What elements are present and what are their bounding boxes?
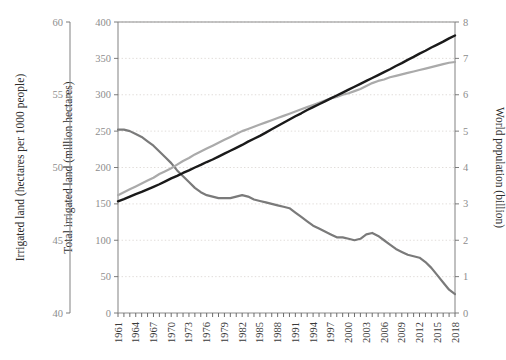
x-tick-label: 1970 [166, 322, 177, 343]
y-tick-label-outer: 60 [53, 17, 64, 28]
y-tick-label-inner: 400 [95, 17, 111, 28]
chart-svg: 1961196419671970197319761979198219851988… [0, 0, 506, 360]
y-tick-label-right: 6 [463, 89, 468, 100]
y-tick-label-inner: 250 [95, 126, 111, 137]
series-line-0 [118, 130, 455, 294]
y-tick-label-right: 3 [463, 198, 468, 209]
gridlines [118, 22, 455, 277]
y-tick-label-inner: 50 [101, 271, 112, 282]
series-group [118, 35, 455, 294]
chart-figure: 1961196419671970197319761979198219851988… [0, 0, 506, 360]
series-line-2 [118, 35, 455, 201]
y-tick-label-outer: 40 [53, 308, 64, 319]
y-tick-label-right: 7 [463, 53, 468, 64]
y-tick-label-right: 8 [463, 17, 468, 28]
x-tick-label: 1985 [254, 322, 265, 343]
y-tick-label-outer: 50 [53, 162, 64, 173]
x-tick-label: 2006 [379, 322, 390, 343]
x-tick-label: 2003 [361, 322, 372, 343]
y-tick-label-right: 4 [463, 162, 469, 173]
y-tick-label-right: 1 [463, 271, 468, 282]
x-tick-label: 2015 [432, 322, 443, 343]
y-tick-label-outer: 55 [53, 89, 64, 100]
x-tick-label: 1961 [113, 322, 124, 343]
x-tick-label: 2012 [414, 322, 425, 343]
x-tick-label: 1991 [290, 322, 301, 343]
x-tick-label: 1988 [272, 322, 283, 343]
y-tick-label-inner: 200 [95, 162, 111, 173]
x-tick-label: 2000 [343, 322, 354, 343]
y-tick-label-inner: 100 [95, 235, 111, 246]
axis-left-outer: 4045505560Irrigated land (hectares per 1… [14, 17, 70, 319]
x-axis: 1961196419671970197319761979198219851988… [113, 313, 461, 343]
x-tick-label: 1964 [130, 321, 141, 343]
x-tick-label: 1973 [183, 322, 194, 343]
x-tick-label: 2018 [450, 322, 461, 343]
axis-right: 012345678World population (billion) [455, 17, 506, 319]
y-tick-label-right: 2 [463, 235, 468, 246]
y-tick-label-inner: 300 [95, 89, 111, 100]
x-tick-label: 1982 [237, 322, 248, 343]
x-tick-label: 1994 [308, 321, 319, 343]
x-tick-label: 1997 [325, 322, 336, 343]
y-tick-label-inner: 0 [106, 308, 111, 319]
y-tick-label-inner: 350 [95, 53, 111, 64]
axis-title-left-outer: Irrigated land (hectares per 1000 people… [14, 74, 27, 262]
x-tick-label: 2009 [396, 322, 407, 343]
axis-title-right: World population (billion) [493, 107, 506, 228]
x-tick-label: 1976 [201, 322, 212, 343]
x-tick-label: 1967 [148, 322, 159, 343]
y-tick-label-outer: 45 [53, 235, 64, 246]
series-line-1 [118, 62, 455, 195]
x-tick-label: 1979 [219, 322, 230, 343]
y-tick-label-right: 0 [463, 308, 468, 319]
y-tick-label-right: 5 [463, 126, 468, 137]
y-tick-label-inner: 150 [95, 198, 111, 209]
